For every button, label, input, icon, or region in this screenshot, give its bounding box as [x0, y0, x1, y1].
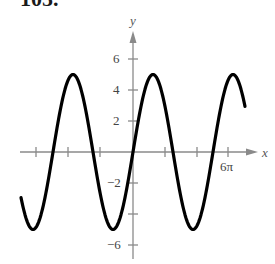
- y-tick-label-neg2: −2: [107, 175, 121, 190]
- x-axis: [20, 147, 258, 157]
- x-axis-label: x: [261, 145, 268, 160]
- y-tick-label-2: 2: [113, 113, 120, 128]
- x-axis-arrow-icon: [246, 149, 258, 156]
- y-tick-label-6: 6: [113, 51, 120, 66]
- y-tick-label-4: 4: [113, 82, 120, 97]
- y-axis-arrow-icon: [130, 31, 137, 43]
- y-tick-label-neg6: −6: [107, 237, 121, 252]
- x-tick-label-6pi: 6π: [220, 159, 234, 174]
- y-axis-label: y: [128, 13, 136, 28]
- sine-graph: 6 4 2 −2 −6 6π x y: [0, 0, 275, 264]
